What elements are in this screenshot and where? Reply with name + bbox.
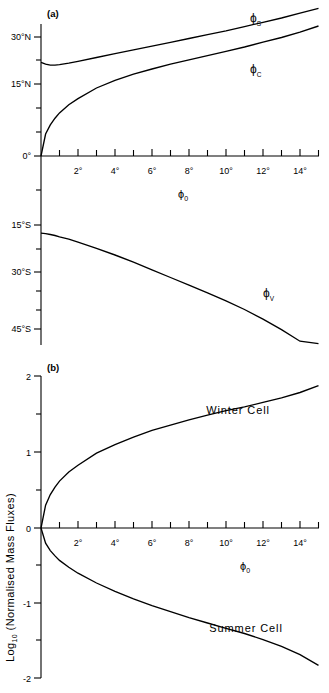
panel-a: (a)	[11, 8, 319, 345]
panel-a-x-axis-title-sub: 0	[184, 195, 188, 202]
panel-b-y-axis-title: Log10 (Normalised Mass Fluxes)	[4, 493, 18, 662]
panel-a-y-tick-label-5: 45°S	[11, 324, 31, 334]
panel-a-x-tick-label-3: 8°	[185, 166, 194, 176]
panel-b-x-tick-label-0: 2°	[74, 538, 83, 548]
panel-a-curve-phi-s	[41, 8, 319, 65]
panel-b-x-axis-title-sub: 0	[246, 567, 250, 574]
panel-b-curve-summer-cell	[41, 528, 319, 665]
panel-b-y-major-ticks	[34, 376, 41, 678]
panel-a-label-phi-v: ϕV	[263, 286, 275, 302]
panel-b-x-tick-label-3: 8°	[185, 538, 194, 548]
panel-a-label-phi-v-sub: V	[270, 295, 275, 302]
panel-b-label-summer-cell: Summer Cell	[209, 622, 282, 634]
panel-a-y-major-ticks	[34, 37, 41, 329]
figure-svg: (a)	[0, 0, 329, 693]
panel-a-x-ticks	[60, 149, 319, 156]
panel-a-x-tick-label-6: 14°	[293, 166, 307, 176]
panel-a-x-tick-label-5: 12°	[256, 166, 270, 176]
panel-a-y-tick-label-3: 15°S	[11, 220, 31, 230]
panel-a-y-tick-label-1: 15°N	[11, 79, 31, 89]
panel-a-x-tick-label-0: 2°	[74, 166, 83, 176]
panel-b-y-minor-ticks	[36, 414, 41, 640]
panel-a-x-tick-label-4: 10°	[219, 166, 233, 176]
scientific-figure: (a)	[0, 0, 329, 693]
panel-b-y-axis-title-post: (Normalised Mass Fluxes)	[4, 493, 16, 634]
panel-a-tag: (a)	[47, 8, 59, 19]
panel-b-x-tick-label-4: 10°	[219, 538, 233, 548]
panel-b: (b) 2 1 0 -1 -2	[4, 362, 319, 684]
panel-b-x-axis-title: ϕ0	[240, 560, 250, 574]
panel-a-label-phi-s: ϕS	[250, 11, 262, 27]
panel-a-label-phi-c-sub: C	[257, 71, 262, 78]
panel-b-y-tick-label-4: -2	[23, 674, 31, 684]
panel-a-x-tick-label-1: 4°	[111, 166, 120, 176]
panel-a-y-tick-label-4: 30°S	[11, 267, 31, 277]
panel-b-x-tick-label-5: 12°	[256, 538, 270, 548]
panel-b-label-winter-cell: Winter Cell	[206, 404, 270, 416]
panel-b-x-tick-label-6: 14°	[293, 538, 307, 548]
panel-b-y-axis-title-sub: 10	[11, 634, 18, 643]
panel-b-x-tick-label-1: 4°	[111, 538, 120, 548]
panel-a-curve-phi-v	[41, 233, 319, 343]
panel-b-x-tick-label-2: 6°	[148, 538, 157, 548]
panel-b-x-ticks	[60, 521, 319, 528]
panel-b-y-tick-label-2: 0	[26, 524, 31, 534]
panel-a-x-axis-title: ϕ0	[178, 188, 188, 202]
panel-a-y-tick-label-0: 30°N	[11, 32, 31, 42]
panel-a-x-tick-label-2: 6°	[148, 166, 157, 176]
panel-a-label-phi-s-sub: S	[257, 20, 262, 27]
panel-a-y-tick-label-2: 0°	[22, 151, 31, 161]
panel-b-curve-winter-cell	[41, 386, 319, 528]
panel-b-y-axis-title-pre: Log	[4, 642, 16, 662]
panel-b-y-tick-label-0: 2	[26, 372, 31, 382]
panel-a-label-phi-c: ϕC	[250, 62, 262, 78]
panel-b-y-tick-label-1: 1	[26, 448, 31, 458]
panel-b-y-tick-label-3: -1	[23, 599, 31, 609]
panel-b-tag: (b)	[47, 362, 59, 373]
panel-a-curve-phi-c	[41, 26, 319, 156]
